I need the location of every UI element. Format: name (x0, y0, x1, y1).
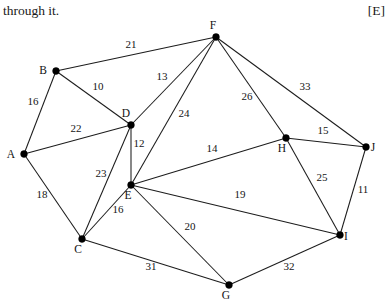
graph-node-d (128, 122, 135, 129)
graph-node-label-h: H (278, 142, 286, 154)
graph-node-label-j: J (371, 141, 376, 153)
graph-node-a (21, 151, 28, 158)
graph-node-label-g: G (222, 289, 230, 301)
graph-node-f (213, 34, 220, 41)
graph-edge-weights-group: 1622181021231631121324141920263332152511 (28, 38, 369, 272)
graph-edge-weight-label: 13 (157, 70, 169, 82)
graph-node-j (363, 144, 370, 151)
network-graph-figure: ABCDEFGHIJ 16221810212316311213241419202… (0, 0, 390, 305)
graph-edge-weight-label: 19 (235, 188, 247, 200)
graph-edge (216, 37, 286, 138)
graph-node-b (53, 68, 60, 75)
graph-edge-weight-label: 18 (37, 188, 49, 200)
graph-edge-weight-label: 32 (284, 260, 295, 272)
page-root: through it. [E] ABCDEFGHIJ 1622181021231… (0, 0, 390, 305)
graph-edge (82, 125, 131, 239)
graph-edge-weight-label: 21 (126, 38, 137, 50)
graph-edge-weight-label: 25 (317, 171, 329, 183)
graph-edge (286, 138, 340, 235)
graph-node-i (337, 232, 344, 239)
graph-edge (286, 138, 366, 147)
graph-edge-weight-label: 14 (207, 142, 219, 154)
graph-edge (24, 154, 82, 239)
graph-edge-weight-label: 33 (300, 80, 312, 92)
graph-node-c (79, 236, 86, 243)
graph-edge (216, 37, 366, 147)
graph-edge-weight-label: 10 (93, 80, 105, 92)
graph-node-h (283, 135, 290, 142)
graph-edge-weight-label: 11 (358, 183, 369, 195)
graph-node-label-c: C (74, 243, 82, 255)
graph-edge (24, 71, 56, 154)
graph-edge-weight-label: 24 (179, 107, 191, 119)
graph-nodes-group: ABCDEFGHIJ (7, 19, 376, 301)
graph-node-label-e: E (124, 189, 131, 201)
graph-edge-weight-label: 22 (71, 122, 82, 134)
graph-edge-weight-label: 16 (28, 95, 40, 107)
graph-node-label-d: D (122, 107, 130, 119)
graph-node-g (226, 282, 233, 289)
graph-edge-weight-label: 26 (242, 90, 254, 102)
graph-node-label-f: F (210, 19, 216, 31)
graph-node-e (128, 182, 135, 189)
graph-edge-weight-label: 15 (318, 124, 330, 136)
graph-edge-weight-label: 12 (134, 137, 145, 149)
graph-edge-weight-label: 23 (96, 167, 108, 179)
graph-edge-weight-label: 20 (185, 220, 197, 232)
graph-edge-weight-label: 31 (146, 260, 157, 272)
graph-node-label-a: A (7, 148, 16, 160)
graph-node-label-b: B (39, 64, 47, 76)
graph-node-label-i: I (344, 230, 348, 242)
graph-edge-weight-label: 16 (113, 203, 125, 215)
